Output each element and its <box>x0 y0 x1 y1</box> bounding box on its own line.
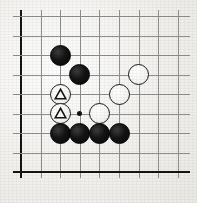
black-stone-b4[interactable] <box>69 123 90 144</box>
go-board[interactable]: Go board diagram <box>0 0 197 203</box>
black-stone-b2[interactable] <box>69 64 90 85</box>
black-stone-b6[interactable] <box>109 123 130 144</box>
white-stone-w5[interactable] <box>128 64 149 85</box>
white-stone-w3[interactable] <box>89 103 110 124</box>
black-stone-b3[interactable] <box>50 123 71 144</box>
white-stone-marked-w1[interactable] <box>50 84 71 105</box>
stone-layer[interactable] <box>0 0 197 203</box>
star-point-1 <box>77 111 82 116</box>
black-stone-b5[interactable] <box>89 123 110 144</box>
black-stone-b1[interactable] <box>50 45 71 66</box>
white-stone-marked-w2[interactable] <box>50 103 71 124</box>
white-stone-w4[interactable] <box>109 84 130 105</box>
